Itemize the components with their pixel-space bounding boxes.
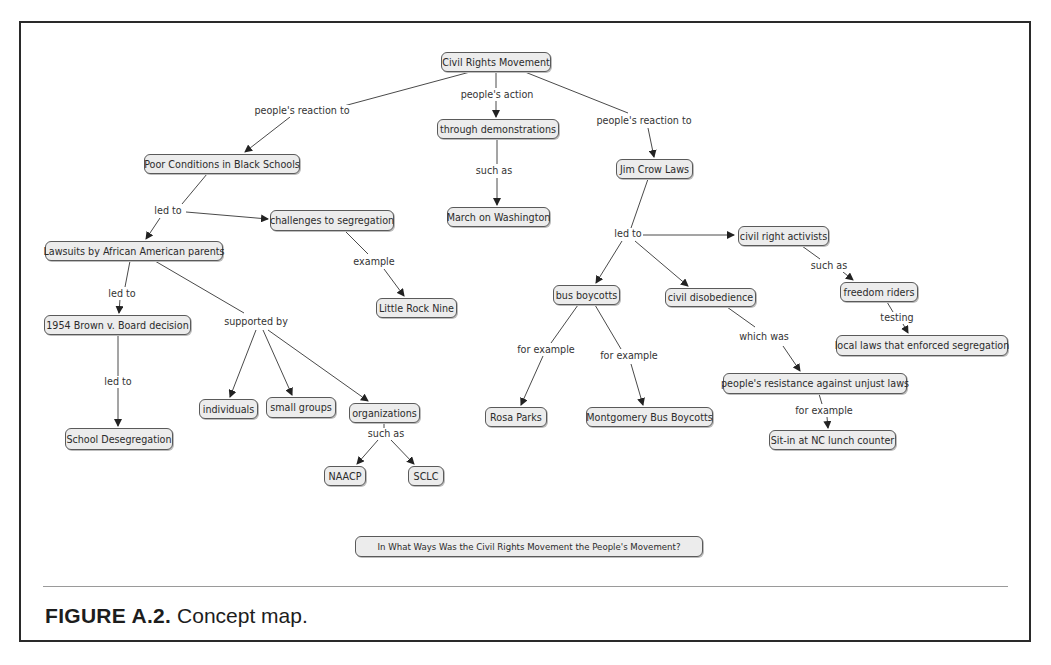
figure-caption-text: Concept map. [177,604,308,627]
link-label-led-to-poor: led to [153,205,182,217]
node-individuals: individuals [199,399,258,419]
node-peoples-resistance: people's resistance against unjust laws [723,373,907,394]
figure-label: FIGURE A.2. [45,604,171,627]
node-small-groups: small groups [266,397,336,418]
node-civil-right-activists: civil right activists [738,226,829,246]
node-poor-conditions: Poor Conditions in Black Schools [144,154,300,174]
link-label-for-example-rosa: for example [516,344,576,356]
link-label-for-example-mont: for example [599,350,659,362]
link-label-reaction-right: people's reaction to [595,115,692,127]
caption-divider [43,586,1008,587]
link-label-which-was: which was [738,331,790,343]
node-challenges-to-segregation: challenges to segregation [270,210,394,231]
node-civil-disobedience: civil disobedience [665,288,756,307]
link-label-example: example [352,256,395,268]
node-jim-crow-laws: Jim Crow Laws [616,159,693,179]
link-label-testing: testing [879,312,914,324]
figure-caption: FIGURE A.2. Concept map. [45,604,308,628]
node-civil-rights-movement: Civil Rights Movement [441,52,551,72]
node-school-desegregation: School Desegregation [65,428,173,450]
node-lawsuits: Lawsuits by African American parents [45,241,223,261]
link-label-led-to-jimcrow: led to [613,228,642,240]
node-montgomery-bus-boycotts: Montgomery Bus Boycotts [586,407,713,427]
node-brown-v-board: 1954 Brown v. Board decision [44,315,191,335]
link-label-such-as-activists: such as [810,260,848,272]
link-label-supported-by: supported by [223,316,289,328]
node-sclc: SCLC [408,466,444,486]
node-organizations: organizations [349,403,420,423]
node-naacp: NAACP [324,466,366,486]
node-bus-boycotts: bus boycotts [553,285,620,305]
link-label-for-example-sitin: for example [794,405,854,417]
node-rosa-parks: Rosa Parks [485,407,547,427]
link-label-such-as-org: such as [367,428,405,440]
link-label-led-to-brown: led to [103,376,132,388]
node-freedom-riders: freedom riders [840,282,918,302]
node-sit-in: Sit-in at NC lunch counter [769,430,896,450]
node-local-laws: local laws that enforced segregation [836,335,1008,356]
link-label-action: people's action [460,89,535,101]
focus-question: In What Ways Was the Civil Rights Moveme… [355,536,703,557]
link-label-led-to-lawsuits: led to [107,288,136,300]
link-label-such-as-march: such as [475,165,513,177]
link-label-reaction-left: people's reaction to [253,105,350,117]
node-little-rock-nine: Little Rock Nine [376,298,457,318]
node-march-on-washington: March on Washington [447,207,550,227]
node-through-demonstrations: through demonstrations [437,119,559,139]
